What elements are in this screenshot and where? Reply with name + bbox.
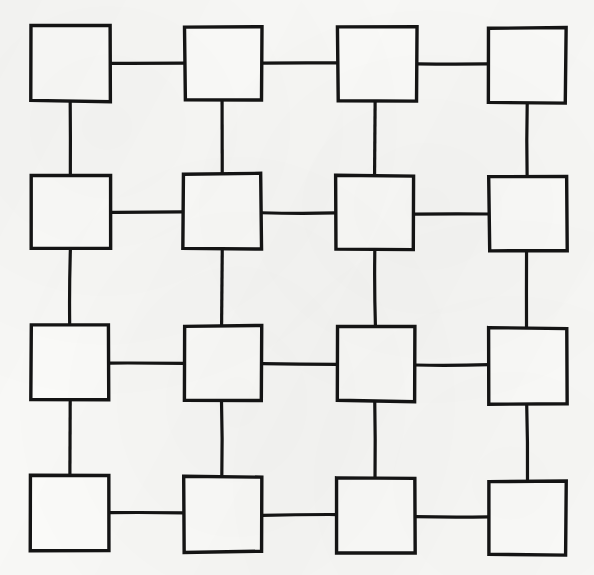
lattice-node (337, 478, 416, 553)
horizontal-connector (262, 364, 337, 365)
horizontal-connector (415, 365, 489, 366)
lattice-node (183, 173, 262, 249)
lattice-node (489, 328, 568, 405)
lattice-node (337, 326, 415, 401)
node-group (30, 25, 567, 555)
lattice-node (30, 475, 109, 550)
vertical-connector (70, 249, 71, 325)
lattice-node (336, 175, 414, 249)
vertical-connector (375, 249, 376, 327)
lattice-node (31, 325, 109, 400)
lattice-node (31, 176, 110, 249)
lattice-node (337, 27, 417, 101)
horizontal-edge-group (109, 63, 489, 517)
vertical-connector (527, 404, 528, 481)
lattice-node (31, 25, 111, 101)
vertical-connector (375, 101, 376, 176)
horizontal-connector (262, 515, 337, 516)
lattice-node (489, 481, 566, 555)
lattice-node (185, 27, 262, 100)
diagram-canvas (0, 0, 594, 575)
lattice-diagram (0, 0, 594, 575)
lattice-node (184, 476, 262, 552)
vertical-edge-group (70, 100, 528, 481)
vertical-connector (222, 401, 223, 477)
lattice-node (489, 176, 568, 250)
vertical-connector (222, 249, 223, 326)
lattice-node (184, 325, 261, 400)
horizontal-connector (261, 213, 336, 214)
lattice-node (488, 28, 566, 104)
